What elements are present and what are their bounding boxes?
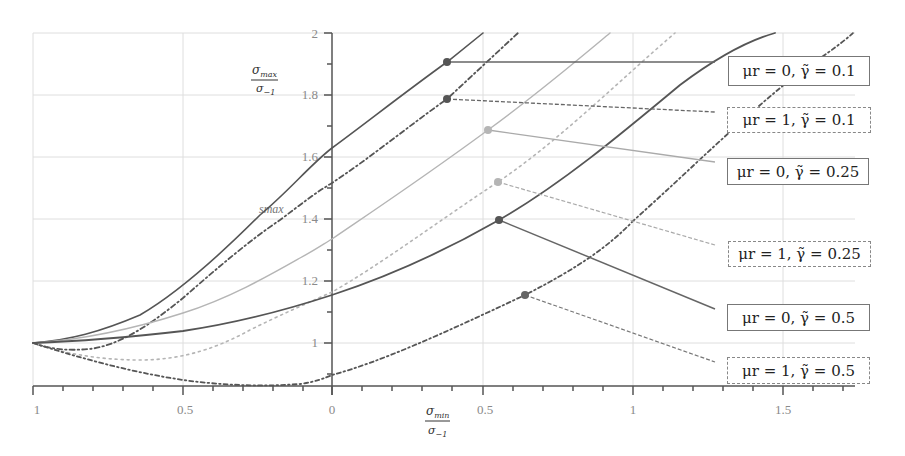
svg-text:σ−1: σ−1 [428,424,447,439]
series-mu0-gamma0.5 [33,33,775,343]
leader-line-mu1-gamma0.25 [498,182,715,245]
legend-label-mu0-gamma0.1: μr = 0, γ̃ = 0.1 [728,56,870,86]
legend-label-mu1-gamma0.25: μr = 1, γ̃ = 0.25 [728,241,871,267]
svg-text:σmin: σmin [426,404,450,420]
y-axis-label: σmax σ−1 [251,63,278,97]
legend-text: μr = 1, γ̃ = 0.1 [742,111,855,129]
x-tick-label: 0 [329,402,336,417]
series-mu1-gamma0.1 [33,33,518,350]
x-tick-label: 1 [34,402,41,417]
legend-text: μr = 1, γ̃ = 0.25 [738,245,861,263]
marker-mu1-gamma0.1 [443,95,451,103]
legend-text: μr = 0, γ̃ = 0.25 [737,163,860,181]
y-tick-label: 1.8 [302,87,318,102]
legend-label-mu0-gamma0.25: μr = 0, γ̃ = 0.25 [727,158,869,185]
x-tick-label: 0.5 [477,402,493,417]
marker-mu0-gamma0.1 [443,58,451,66]
legend-label-mu0-gamma0.5: μr = 0, γ̃ = 0.5 [727,304,870,331]
marker-mu0-gamma0.5 [495,216,503,224]
leader-line-mu0-gamma0.5 [499,220,715,309]
y-tick-label: 1.4 [302,211,319,226]
x-tick-label: 0.5 [177,402,193,417]
legend-text: μr = 0, γ̃ = 0.5 [742,309,855,327]
y-tick-label: 2 [312,26,319,41]
legend-text: μr = 1, γ̃ = 0.5 [742,362,855,380]
marker-mu1-gamma0.25 [494,178,502,186]
x-axis-label: σmin σ−1 [425,404,450,439]
legend-label-mu1-gamma0.1: μr = 1, γ̃ = 0.1 [727,107,871,133]
x-axis [33,386,855,395]
leader-line-mu1-gamma0.1 [447,99,715,112]
x-tick-label: 1 [630,402,637,417]
leader-line-mu1-gamma0.5 [525,295,715,362]
marker-mu0-gamma0.25 [484,126,492,134]
svg-text:σ−1: σ−1 [256,82,275,97]
y-tick-label: 1 [312,335,319,350]
series-mu1-gamma0.25 [33,33,675,360]
y-tick-label: 1.2 [302,273,318,288]
x-tick-label: 1.5 [775,402,791,417]
legend-label-mu1-gamma0.5: μr = 1, γ̃ = 0.5 [727,357,870,384]
svg-text:σmax: σmax [252,63,278,79]
x-tick-labels: 1 0.5 0 0.5 1 1.5 [34,402,791,417]
y-axis [324,33,332,395]
legend-text: μr = 0, γ̃ = 0.1 [742,62,855,80]
marker-mu1-gamma0.5 [521,291,529,299]
